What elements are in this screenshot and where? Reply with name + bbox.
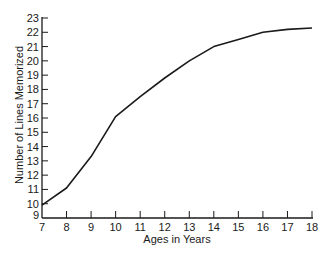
x-tick-label: 12 xyxy=(159,221,171,233)
x-tick-label: 18 xyxy=(306,221,318,233)
y-tick-label: 16 xyxy=(27,112,39,124)
y-axis-ticks: 91011121314151617181920212223 xyxy=(27,12,48,221)
x-tick-label: 11 xyxy=(134,221,145,233)
y-tick-label: 19 xyxy=(27,69,39,81)
y-tick-label: 14 xyxy=(27,141,39,153)
y-axis-title: Number of Lines Memorized xyxy=(13,46,25,184)
x-tick-label: 8 xyxy=(63,221,69,233)
y-tick-label: 12 xyxy=(27,169,39,181)
y-tick-label: 21 xyxy=(27,41,39,53)
data-line xyxy=(42,28,312,205)
x-tick-label: 17 xyxy=(281,221,293,233)
y-tick-label: 15 xyxy=(27,126,39,138)
y-tick-label: 17 xyxy=(27,98,39,110)
y-tick-label: 10 xyxy=(27,198,39,210)
x-tick-label: 7 xyxy=(39,221,45,233)
x-tick-label: 13 xyxy=(183,221,195,233)
y-tick-label: 22 xyxy=(27,26,39,38)
x-tick-label: 10 xyxy=(110,221,122,233)
y-tick-label: 18 xyxy=(27,83,39,95)
y-tick-label: 9 xyxy=(33,209,39,221)
y-tick-label: 11 xyxy=(28,183,39,195)
x-tick-label: 9 xyxy=(88,221,94,233)
x-axis-title: Ages in Years xyxy=(143,233,211,245)
y-tick-label: 23 xyxy=(27,12,39,24)
line-chart: 91011121314151617181920212223 7891011121… xyxy=(0,0,325,256)
x-tick-label: 16 xyxy=(257,221,269,233)
y-tick-label: 20 xyxy=(27,55,39,67)
y-tick-label: 13 xyxy=(27,155,39,167)
x-axis-ticks: 789101112131415161718 xyxy=(39,211,318,233)
x-tick-label: 14 xyxy=(208,221,220,233)
x-tick-label: 15 xyxy=(232,221,244,233)
